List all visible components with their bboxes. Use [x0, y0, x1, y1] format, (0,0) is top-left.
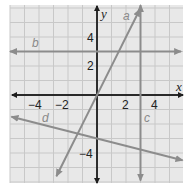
line-b-label: b [32, 36, 39, 50]
y-axis-label: y [99, 6, 107, 21]
x-axis-label: x [175, 79, 182, 94]
tick-x-neg4: −4 [28, 98, 42, 112]
line-c-label: c [144, 111, 150, 125]
tick-y-neg4: −4 [79, 147, 93, 161]
line-d-label: d [42, 111, 49, 125]
tick-x-neg2: −2 [55, 98, 69, 112]
tick-y-4: 4 [87, 31, 94, 45]
tick-y-2: 2 [87, 59, 94, 73]
tick-x-2: 2 [122, 98, 129, 112]
coordinate-plane: x y −4 −2 2 4 4 2 −4 a b c d [0, 0, 195, 194]
line-a-label: a [123, 9, 130, 23]
tick-x-4: 4 [151, 98, 158, 112]
